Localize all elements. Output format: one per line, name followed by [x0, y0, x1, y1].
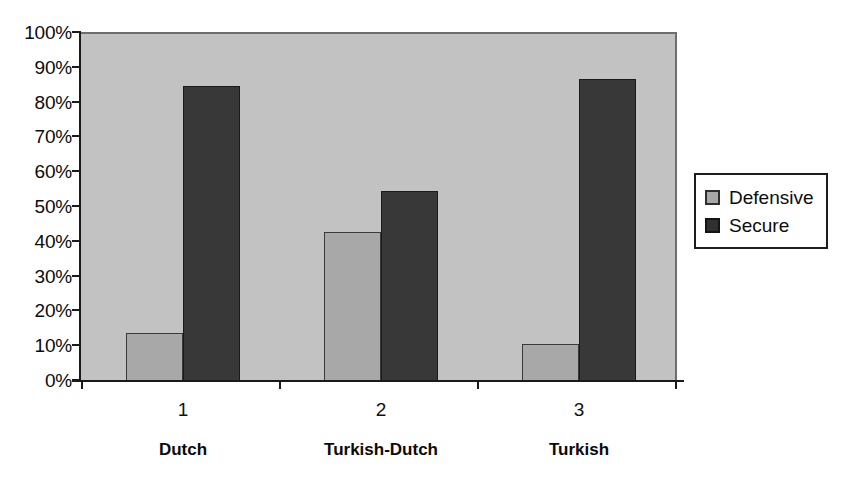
y-axis-tick-mark	[72, 379, 80, 381]
y-axis-tick-mark	[72, 240, 80, 242]
y-axis-tick-label: 10%	[0, 336, 72, 355]
bar-secure-3	[579, 79, 636, 382]
bar-defensive-3	[522, 344, 579, 382]
legend-item-secure: Secure	[705, 211, 814, 239]
y-axis-tick-label: 20%	[0, 301, 72, 320]
y-axis-tick-mark	[72, 275, 80, 277]
y-axis-tick-label: 0%	[0, 371, 72, 390]
y-axis-tick-mark	[72, 101, 80, 103]
y-axis-tick-label: 50%	[0, 197, 72, 216]
y-axis-tick-mark	[72, 344, 80, 346]
legend-item-defensive: Defensive	[705, 183, 814, 211]
x-axis-group-name: Turkish-Dutch	[324, 441, 438, 458]
x-axis-group-3: 3Turkish	[549, 400, 609, 458]
bar-defensive-2	[324, 232, 381, 382]
bar-defensive-1	[126, 333, 183, 382]
x-axis-tick-mark	[675, 380, 677, 389]
bar-secure-1	[183, 86, 240, 382]
x-axis-group-1: 1Dutch	[159, 400, 207, 458]
x-axis-tick-mark	[477, 380, 479, 389]
chart-legend: Defensive Secure	[694, 173, 828, 249]
y-axis-tick-mark	[72, 170, 80, 172]
x-axis-group-index: 2	[324, 400, 438, 419]
x-axis-group-name: Turkish	[549, 441, 609, 458]
y-axis-tick-label: 30%	[0, 266, 72, 285]
bar-chart: 0%10%20%30%40%50%60%70%80%90%100% 1Dutch…	[0, 0, 842, 485]
y-axis-tick-label: 90%	[0, 57, 72, 76]
legend-swatch-secure-icon	[705, 218, 720, 233]
legend-label-defensive: Defensive	[729, 188, 814, 207]
bars-container	[81, 34, 675, 382]
y-axis-tick-mark	[72, 205, 80, 207]
x-axis-group-2: 2Turkish-Dutch	[324, 400, 438, 458]
y-axis-tick-mark	[72, 135, 80, 137]
x-axis-group-index: 3	[549, 400, 609, 419]
y-axis-tick-mark	[72, 66, 80, 68]
plot-area	[81, 32, 677, 382]
bar-secure-2	[381, 191, 438, 382]
x-axis-group-name: Dutch	[159, 441, 207, 458]
x-axis-group-index: 1	[159, 400, 207, 419]
y-axis-tick-label: 60%	[0, 162, 72, 181]
x-axis-line	[72, 380, 684, 382]
legend-label-secure: Secure	[729, 216, 789, 235]
y-axis-tick-mark	[72, 31, 80, 33]
y-axis: 0%10%20%30%40%50%60%70%80%90%100%	[0, 32, 72, 380]
y-axis-tick-label: 40%	[0, 231, 72, 250]
y-axis-tick-label: 80%	[0, 92, 72, 111]
y-axis-tick-mark	[72, 309, 80, 311]
y-axis-tick-label: 70%	[0, 127, 72, 146]
x-axis-tick-mark	[279, 380, 281, 389]
y-axis-tick-label: 100%	[0, 23, 72, 42]
x-axis-tick-mark	[81, 380, 83, 389]
legend-swatch-defensive-icon	[705, 190, 720, 205]
